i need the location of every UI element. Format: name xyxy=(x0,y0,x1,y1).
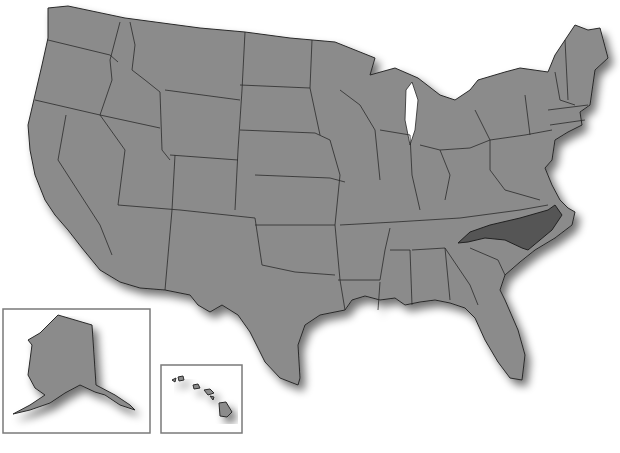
hawaii-inset-frame xyxy=(161,365,242,433)
us-map xyxy=(0,0,620,453)
